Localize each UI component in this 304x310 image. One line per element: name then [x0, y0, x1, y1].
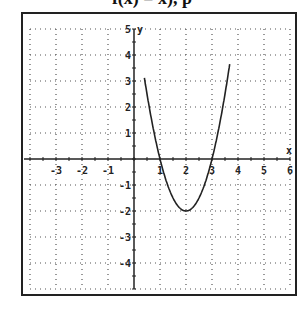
- y-tick-label: 3: [125, 76, 131, 87]
- y-tick-label: 4: [125, 50, 131, 61]
- x-tick-label: -2: [76, 165, 88, 176]
- parabola-curve: [144, 64, 229, 211]
- x-tick-label: -1: [102, 165, 114, 176]
- y-tick-label: -2: [119, 206, 131, 217]
- y-tick-label: -4: [119, 258, 131, 269]
- y-tick-label: -1: [119, 180, 131, 191]
- x-tick-label: -3: [50, 165, 62, 176]
- y-tick-label: 1: [125, 128, 131, 139]
- x-tick-label: 6: [287, 165, 293, 176]
- graph: -3-2-1123456-4-3-2-112345xy: [0, 0, 304, 310]
- y-tick-label: 2: [125, 102, 131, 113]
- x-axis-label: x: [286, 145, 292, 156]
- x-tick-label: 2: [183, 165, 189, 176]
- x-tick-label: 5: [261, 165, 267, 176]
- y-tick-label: 5: [125, 24, 131, 35]
- x-tick-label: 4: [235, 165, 241, 176]
- y-tick-label: -3: [119, 232, 131, 243]
- y-axis-label: y: [137, 24, 143, 35]
